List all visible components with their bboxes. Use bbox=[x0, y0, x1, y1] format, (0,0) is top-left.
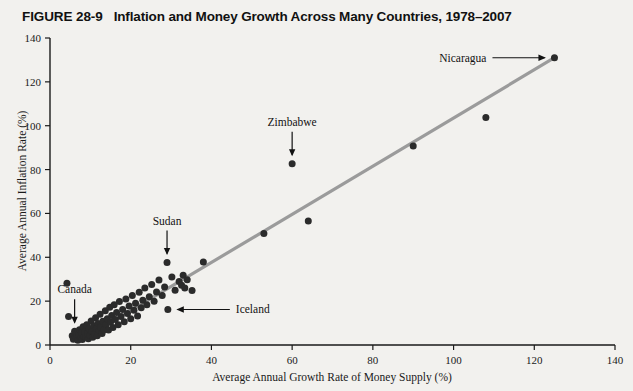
data-point bbox=[289, 160, 296, 167]
data-point bbox=[482, 114, 489, 121]
data-point bbox=[410, 142, 417, 149]
x-tick-label: 20 bbox=[125, 354, 137, 366]
annotation-label-canada: Canada bbox=[57, 283, 91, 295]
data-point bbox=[164, 306, 171, 313]
data-point bbox=[181, 284, 188, 291]
data-point bbox=[164, 259, 171, 266]
data-point bbox=[159, 292, 166, 299]
annotations: NicaraguaZimbabweSudanCanadaIceland bbox=[57, 52, 546, 324]
data-point bbox=[151, 298, 158, 305]
annotation-arrowhead-zimbabwe bbox=[289, 149, 295, 156]
data-point bbox=[136, 289, 143, 296]
data-point bbox=[121, 318, 128, 325]
data-point bbox=[134, 313, 141, 320]
data-point bbox=[132, 300, 139, 307]
annotation-label-nicaragua: Nicaragua bbox=[439, 52, 486, 65]
chart-canvas: 020406080100120140 020406080100120140 Ni… bbox=[0, 0, 633, 391]
annotation-arrowhead-iceland bbox=[176, 306, 184, 312]
x-tick-label: 40 bbox=[206, 354, 218, 366]
data-point bbox=[200, 259, 207, 266]
data-point bbox=[116, 298, 123, 305]
data-point bbox=[148, 281, 155, 288]
x-axis-tick-labels: 020406080100120140 bbox=[47, 354, 624, 366]
data-point bbox=[115, 321, 122, 328]
data-point bbox=[127, 315, 134, 322]
data-point bbox=[129, 292, 136, 299]
x-tick-label: 0 bbox=[47, 354, 53, 366]
y-tick-label: 20 bbox=[30, 295, 42, 307]
data-point bbox=[184, 276, 191, 283]
annotation-label-zimbabwe: Zimbabwe bbox=[268, 116, 317, 128]
data-point bbox=[168, 274, 175, 281]
y-tick-label: 120 bbox=[25, 76, 42, 88]
data-point bbox=[122, 295, 129, 302]
x-tick-label: 80 bbox=[367, 354, 379, 366]
data-point bbox=[172, 287, 179, 294]
y-tick-label: 60 bbox=[30, 207, 42, 219]
y-tick-label: 0 bbox=[36, 339, 42, 351]
y-tick-label: 40 bbox=[30, 251, 42, 263]
x-tick-label: 120 bbox=[526, 354, 543, 366]
data-point bbox=[260, 230, 267, 237]
data-point bbox=[65, 313, 72, 320]
y-tick-label: 80 bbox=[30, 164, 42, 176]
data-point bbox=[141, 284, 148, 291]
annotation-arrowhead-nicaragua bbox=[538, 55, 546, 61]
data-point bbox=[161, 284, 168, 291]
x-tick-label: 100 bbox=[445, 354, 462, 366]
y-tick-label: 140 bbox=[25, 32, 42, 44]
x-tick-label: 140 bbox=[607, 354, 624, 366]
figure-page: FIGURE 28-9Inflation and Money Growth Ac… bbox=[0, 0, 633, 391]
data-point bbox=[155, 277, 162, 284]
y-axis-title: Average Annual Inflation Rate (%) bbox=[16, 110, 29, 271]
y-axis-ticks bbox=[45, 38, 50, 345]
annotation-label-sudan: Sudan bbox=[153, 215, 182, 227]
trend-line bbox=[102, 58, 554, 328]
annotation-arrowhead-sudan bbox=[164, 248, 170, 255]
data-point bbox=[189, 287, 196, 294]
x-axis-title: Average Annual Growth Rate of Money Supp… bbox=[212, 371, 452, 384]
data-point bbox=[551, 54, 558, 61]
data-point bbox=[143, 301, 150, 308]
x-axis-ticks bbox=[50, 345, 615, 350]
scatter-chart: 020406080100120140 020406080100120140 Ni… bbox=[0, 0, 633, 391]
data-point bbox=[305, 217, 312, 224]
annotation-arrowhead-canada bbox=[71, 317, 77, 324]
annotation-label-iceland: Iceland bbox=[236, 303, 270, 315]
x-tick-label: 60 bbox=[287, 354, 299, 366]
data-points bbox=[63, 54, 558, 343]
